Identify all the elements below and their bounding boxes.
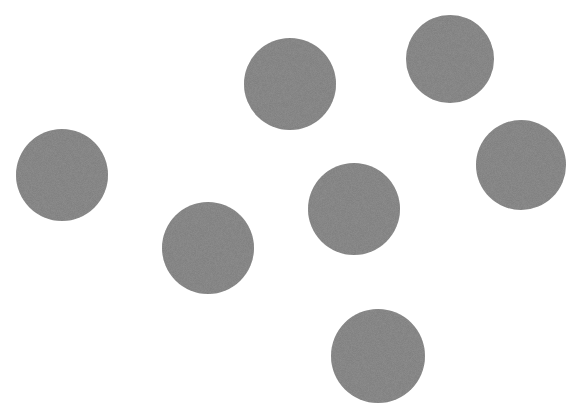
gray-dot [162,202,254,294]
dots-canvas [0,0,580,415]
gray-dots-group [16,15,566,403]
gray-dot [244,38,336,130]
gray-dot [331,309,425,403]
gray-dot [308,163,400,255]
gray-dot [406,15,494,103]
gray-dot [476,120,566,210]
gray-dot [16,129,108,221]
